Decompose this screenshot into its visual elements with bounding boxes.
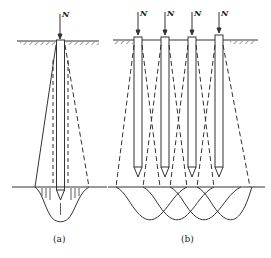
load-label-b-3: N (194, 8, 201, 18)
pile-a (57, 40, 65, 190)
arrow-head-a (58, 34, 62, 39)
load-label-b-4: N (221, 8, 228, 18)
figure-b (108, 12, 265, 220)
caption-b: (b) (181, 234, 194, 244)
pile-b-3 (188, 37, 196, 167)
soil-hatch-right-b (230, 41, 256, 44)
soil-hatch-left-a (20, 42, 56, 45)
caption-a: (a) (53, 234, 65, 244)
soil-hatch-left-b (113, 41, 133, 44)
figure-a (12, 14, 107, 222)
stress-bulb-a (35, 187, 89, 222)
load-label-b-1: N (140, 8, 147, 18)
pile-b-4 (215, 35, 223, 167)
load-label-b-2: N (167, 8, 174, 18)
stress-bulbs-b (116, 187, 252, 220)
pile-b-2 (161, 37, 169, 167)
pile-diagram (0, 0, 271, 258)
pile-tip-a (57, 190, 65, 200)
pile-b-1 (134, 37, 142, 167)
load-arrows-b (136, 12, 221, 35)
load-label-a: N (62, 9, 69, 19)
soil-hatch-right-a (66, 42, 99, 45)
